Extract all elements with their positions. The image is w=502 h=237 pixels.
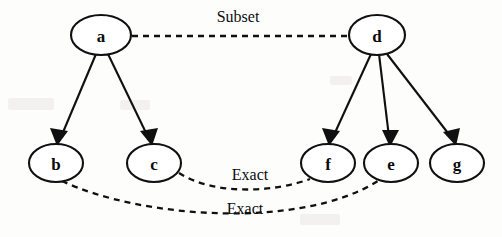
edge-d-to-e[interactable]: [379, 54, 389, 137]
node-a-label: a: [97, 27, 106, 46]
edge-d-to-f[interactable]: [333, 54, 371, 137]
node-b-label: b: [51, 155, 60, 174]
diagram-canvas: a d b c f e g Subset Exact: [0, 0, 502, 237]
node-e[interactable]: e: [364, 144, 418, 182]
edge-label-subset: Subset: [217, 8, 260, 25]
solid-edge-group-a: [50, 54, 158, 146]
node-c-label: c: [150, 155, 158, 174]
node-f-label: f: [325, 155, 331, 174]
edge-label-group: Subset Exact Exact: [217, 8, 269, 217]
node-d[interactable]: d: [349, 15, 405, 55]
node-c[interactable]: c: [127, 144, 181, 182]
node-g[interactable]: g: [430, 144, 484, 182]
solid-edge-group-d: [322, 54, 460, 147]
node-g-label: g: [453, 155, 462, 174]
node-b[interactable]: b: [29, 144, 83, 182]
node-e-label: e: [387, 155, 395, 174]
edge-label-exact-upper: Exact: [232, 166, 269, 183]
node-d-label: d: [372, 27, 382, 46]
dashed-edge-exact-b-e[interactable]: [62, 181, 378, 213]
node-f[interactable]: f: [301, 144, 355, 182]
edge-d-to-g[interactable]: [387, 54, 451, 137]
edge-a-to-b[interactable]: [61, 54, 96, 137]
relationship-graph: a d b c f e g Subset Exact: [0, 0, 502, 237]
node-a[interactable]: a: [71, 15, 131, 55]
edge-label-exact-lower: Exact: [227, 200, 264, 217]
dashed-edge-group: [62, 36, 378, 213]
edge-a-to-c[interactable]: [108, 54, 148, 137]
